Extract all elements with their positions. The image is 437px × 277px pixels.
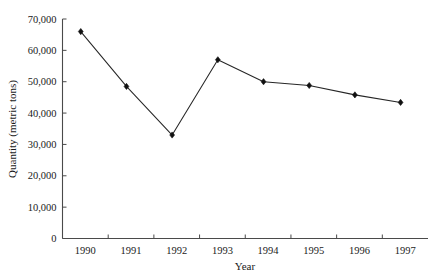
y-tick-label: 60,000 <box>28 45 57 56</box>
y-axis-ticks <box>63 19 67 239</box>
y-tick-label: 20,000 <box>28 170 57 181</box>
x-axis-ticks <box>108 235 382 239</box>
x-axis-title: Year <box>235 260 256 272</box>
data-point-marker <box>398 99 403 105</box>
x-tick-label: 1990 <box>75 245 96 256</box>
x-tick-label: 1993 <box>212 245 233 256</box>
x-tick-label: 1995 <box>303 245 324 256</box>
x-tick-label: 1991 <box>121 245 142 256</box>
y-tick-label: 30,000 <box>28 139 57 150</box>
line-chart: 010,00020,00030,00040,00050,00060,00070,… <box>0 0 437 277</box>
y-axis-tick-labels: 010,00020,00030,00040,00050,00060,00070,… <box>28 14 57 245</box>
data-point-marker <box>352 92 357 98</box>
chart-canvas: 010,00020,00030,00040,00050,00060,00070,… <box>0 0 437 277</box>
y-axis-title: Quantity (metric tons) <box>6 80 19 178</box>
y-tick-label: 10,000 <box>28 202 57 213</box>
y-tick-label: 40,000 <box>28 108 57 119</box>
series-line-quantity <box>81 32 401 135</box>
x-axis-tick-labels: 19901991199219931994199519961997 <box>75 245 416 256</box>
series-markers-quantity <box>78 28 403 138</box>
x-tick-label: 1997 <box>395 245 416 256</box>
y-tick-label: 70,000 <box>28 14 57 25</box>
x-tick-label: 1994 <box>258 245 280 256</box>
data-point-marker <box>307 82 312 88</box>
y-tick-label: 50,000 <box>28 76 57 87</box>
x-tick-label: 1992 <box>166 245 187 256</box>
x-tick-label: 1996 <box>349 245 370 256</box>
axes <box>63 19 429 239</box>
data-point-marker <box>261 79 266 85</box>
y-tick-label: 0 <box>51 233 56 244</box>
